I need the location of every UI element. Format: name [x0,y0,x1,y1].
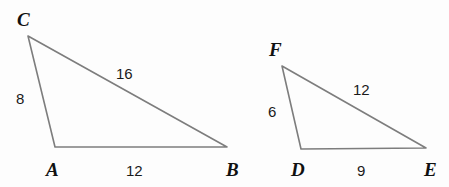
similar-triangles-canvas: C A B 8 16 12 F D E 6 12 9 [0,0,449,187]
side-length-cb: 16 [116,65,133,82]
vertex-label-f: F [268,39,282,60]
side-length-fe: 12 [353,81,370,98]
side-length-fd: 6 [268,103,276,120]
vertex-label-d: D [290,159,305,180]
vertex-label-e: E [423,159,437,180]
vertex-label-b: B [225,159,239,180]
vertex-label-c: C [17,9,30,30]
side-length-ab: 12 [126,162,143,179]
figure-background [0,0,449,187]
side-length-ca: 8 [16,90,24,107]
vertex-label-a: A [45,159,59,180]
geometry-figure: C A B 8 16 12 F D E 6 12 9 [0,0,449,187]
side-length-de: 9 [357,162,365,179]
